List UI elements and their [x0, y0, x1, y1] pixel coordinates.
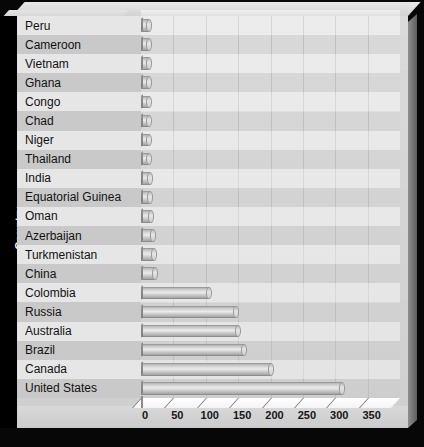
bar-row — [141, 360, 400, 379]
bar-depth-shoulder — [141, 74, 143, 93]
bar-end-cap — [148, 210, 154, 223]
category-label-row: Niger — [17, 131, 141, 150]
x-axis-tick — [261, 398, 271, 408]
bar-end-cap — [146, 76, 152, 89]
bar[interactable] — [141, 287, 209, 300]
x-axis-tick-label: 300 — [330, 409, 348, 421]
bar[interactable] — [141, 325, 238, 338]
bar-depth-shoulder — [141, 170, 143, 189]
bar-depth-shoulder — [141, 113, 143, 132]
bar-end-cap — [241, 344, 247, 357]
category-label: Vietnam — [17, 58, 69, 70]
bar-row — [141, 112, 400, 131]
category-label-row: Russia — [17, 302, 141, 321]
bar-row — [141, 207, 400, 226]
bar[interactable] — [141, 115, 149, 128]
bar-row — [141, 188, 400, 207]
bar-row — [141, 150, 400, 169]
bar-depth-shoulder — [141, 94, 143, 113]
category-label-row: Equatorial Guinea — [17, 188, 141, 207]
x-axis-line — [132, 398, 400, 408]
bar-end-cap — [150, 229, 156, 242]
category-label-row: Thailand — [17, 150, 141, 169]
category-label-row: Ghana — [17, 73, 141, 92]
bar-depth-shoulder — [141, 227, 143, 246]
bar[interactable] — [141, 76, 149, 89]
bar[interactable] — [141, 172, 150, 185]
category-label: Australia — [17, 325, 72, 337]
bar-depth-shoulder — [141, 323, 143, 342]
category-label-row: Australia — [17, 322, 141, 341]
x-axis-tick — [359, 398, 369, 408]
category-label-row: Vietnam — [17, 54, 141, 73]
bar-end-cap — [146, 96, 152, 109]
bar[interactable] — [141, 363, 271, 376]
bar-depth-shoulder — [141, 285, 143, 304]
bar[interactable] — [141, 229, 153, 242]
bar[interactable] — [141, 267, 155, 280]
bar[interactable] — [141, 191, 150, 204]
bar-depth-shoulder — [141, 151, 143, 170]
bar-row — [141, 35, 400, 54]
plot-area — [141, 16, 400, 398]
x-axis-tick-label: 250 — [298, 409, 316, 421]
bar-row — [141, 92, 400, 111]
bar[interactable] — [141, 344, 244, 357]
category-label: India — [17, 172, 51, 184]
bar-row — [141, 264, 400, 283]
x-axis-tick-label: 350 — [362, 409, 380, 421]
bar[interactable] — [141, 210, 151, 223]
category-label: Colombia — [17, 287, 76, 299]
category-label: Niger — [17, 134, 54, 146]
bar-end-cap — [339, 382, 345, 395]
category-label-row: Brazil — [17, 341, 141, 360]
category-label-column: PeruCameroonVietnamGhanaCongoChadNigerTh… — [17, 16, 141, 398]
bar-end-cap — [146, 115, 152, 128]
category-label: Ghana — [17, 77, 61, 89]
bar-end-cap — [146, 19, 152, 32]
bar[interactable] — [141, 153, 149, 166]
bar-end-cap — [206, 287, 212, 300]
bar[interactable] — [141, 38, 149, 51]
x-axis-tick-label: 0 — [142, 409, 148, 421]
x-axis-tick — [197, 398, 207, 408]
x-axis-tick-label: 200 — [265, 409, 283, 421]
category-label: Cameroon — [17, 39, 81, 51]
bar-end-cap — [146, 134, 152, 147]
category-label: Peru — [17, 20, 50, 32]
bar-row — [141, 73, 400, 92]
bar-depth-shoulder — [141, 246, 143, 265]
category-label: Thailand — [17, 153, 71, 165]
chart-screenshot: Country PeruCameroonVietnamGhanaCongoCha… — [0, 0, 424, 447]
bar[interactable] — [141, 96, 149, 109]
bar[interactable] — [141, 57, 149, 70]
bar-row — [141, 169, 400, 188]
x-axis-tick — [294, 398, 304, 408]
category-label: Oman — [17, 210, 58, 222]
category-label: Brazil — [17, 344, 55, 356]
bar-row — [141, 54, 400, 73]
bar[interactable] — [141, 306, 236, 319]
bar-row — [141, 245, 400, 264]
bar-end-cap — [146, 57, 152, 70]
bar[interactable] — [141, 382, 342, 395]
bar-row — [141, 226, 400, 245]
x-axis-tick-label: 100 — [201, 409, 219, 421]
x-axis-tick — [164, 398, 174, 408]
bar[interactable] — [141, 19, 149, 32]
bar-depth-shoulder — [141, 361, 143, 380]
x-axis-tick-labels: 050100150200250300350 — [141, 409, 421, 425]
category-label: Congo — [17, 96, 60, 108]
bar-depth-shoulder — [141, 265, 143, 284]
category-label: United States — [17, 382, 97, 394]
bar-depth-shoulder — [141, 55, 143, 74]
bar-end-cap — [146, 153, 152, 166]
category-label: Turkmenistan — [17, 249, 97, 261]
category-label: Equatorial Guinea — [17, 191, 121, 203]
y-axis-title-strip: Country — [0, 16, 17, 428]
bar[interactable] — [141, 248, 154, 261]
bar[interactable] — [141, 134, 149, 147]
plot-frame-right-side — [408, 14, 417, 428]
category-label-row: Canada — [17, 360, 141, 379]
category-label-row: Colombia — [17, 283, 141, 302]
